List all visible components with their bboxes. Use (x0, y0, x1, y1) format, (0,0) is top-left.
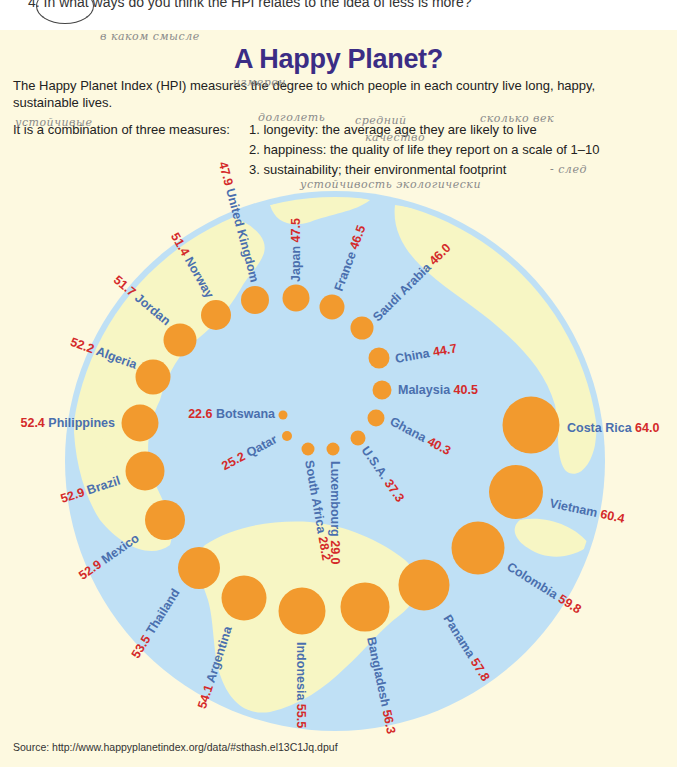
bubble-jordan (164, 324, 197, 357)
label-malaysia: Malaysia 40.5 (398, 383, 478, 397)
bubble-thailand (178, 547, 220, 589)
label-japan: Japan 47.5 (289, 218, 303, 282)
bubble-qatar (282, 431, 292, 441)
label-luxembourg: Luxembourg 29.0 (328, 461, 342, 565)
bubble-china (369, 348, 390, 369)
bubble-mexico (145, 500, 185, 540)
bubble-saudi-arabia (351, 317, 374, 340)
label-costa-rica: Costa Rica 64.0 (567, 421, 659, 435)
label-botswana: 22.6 Botswana (188, 407, 276, 421)
bubble-costa-rica (503, 397, 560, 454)
bubble-japan (283, 285, 310, 312)
bubble-norway (201, 300, 231, 330)
label-indonesia: Indonesia 55.5 (294, 642, 308, 728)
bubble-vietnam (489, 465, 543, 519)
bubble-luxembourg (327, 443, 340, 456)
bubble-algeria (136, 360, 171, 395)
bubble-brazil (126, 452, 165, 491)
bubble-france (320, 295, 345, 320)
bubble-argentina (222, 576, 267, 621)
bubble-south-africa (302, 443, 315, 456)
bubble-u-s-a (351, 431, 366, 446)
bubble-bangladesh (341, 583, 390, 632)
bubble-united-kingdom (241, 286, 269, 314)
source-citation: Source: http://www.happyplanetindex.org/… (13, 741, 338, 753)
bubble-ghana (368, 410, 385, 427)
hpi-globe-chart: 22.6 Botswana25.2 QatarSouth Africa 28.2… (0, 0, 677, 767)
bubble-panama (399, 560, 450, 611)
bubble-botswana (279, 411, 288, 420)
bubble-indonesia (279, 588, 326, 635)
label-philippines: 52.4 Philippines (20, 416, 115, 430)
bubble-malaysia (373, 381, 392, 400)
bubble-philippines (122, 405, 159, 442)
bubble-colombia (452, 522, 505, 575)
